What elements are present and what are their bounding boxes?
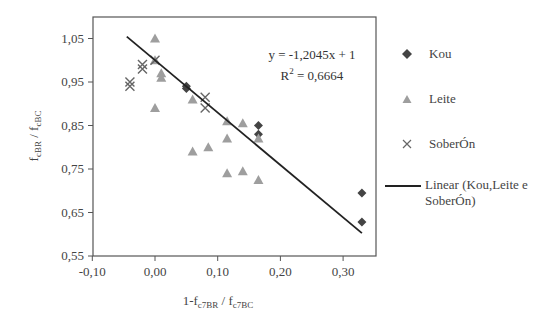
legend-label: SoberÓn	[429, 136, 475, 152]
y-tick-label: 1,05	[61, 31, 84, 46]
y-axis: 0,550,650,750,850,951,05	[61, 31, 93, 264]
soberon-point	[138, 64, 147, 73]
y-tick-label: 0,65	[61, 205, 84, 220]
y-tick-label: 0,85	[61, 118, 84, 133]
x-tick-label: 0,10	[206, 264, 229, 279]
leite-point	[188, 147, 198, 156]
soberon-point	[125, 78, 134, 87]
soberon-point	[125, 82, 134, 91]
x-tick-label: 0,20	[269, 264, 292, 279]
kou-point	[254, 121, 263, 130]
diamond-marker-icon	[395, 49, 419, 59]
y-tick-label: 0,55	[61, 248, 84, 263]
leite-point	[222, 168, 232, 177]
legend: Kou Leite SoberÓn Linear (Kou,Leite e So…	[395, 44, 545, 197]
x-marker-icon	[395, 139, 419, 149]
x-tick-label: -0,10	[79, 264, 106, 279]
data-points	[125, 34, 366, 227]
y-axis-title: fcBR / fcBC	[26, 111, 43, 162]
line-marker-icon	[385, 185, 421, 187]
legend-item-soberon: SoberÓn	[395, 134, 545, 154]
legend-label: Kou	[429, 46, 451, 62]
legend-label: Leite	[429, 91, 456, 107]
leite-point	[238, 166, 248, 175]
x-axis-title: 1-fc7BR / fc7BC	[183, 293, 254, 310]
leite-point	[150, 34, 160, 43]
kou-point	[357, 218, 366, 227]
leite-point	[203, 142, 213, 151]
trendline-equation: y = -1,2045x + 1	[268, 47, 355, 62]
kou-point	[357, 188, 366, 197]
soberon-point	[138, 60, 147, 69]
triangle-marker-icon	[395, 94, 419, 104]
leite-point	[150, 103, 160, 112]
legend-item-linear-trend: Linear (Kou,Leite e SoberÓn)	[395, 177, 545, 197]
trendline	[127, 37, 362, 233]
legend-item-kou: Kou	[395, 44, 545, 64]
x-tick-label: 0,00	[144, 264, 167, 279]
leite-point	[222, 134, 232, 143]
x-tick-label: 0,30	[332, 264, 355, 279]
leite-point	[253, 175, 263, 184]
legend-label: Linear (Kou,Leite e SoberÓn)	[425, 177, 535, 209]
leite-point	[238, 118, 248, 127]
x-axis: -0,100,000,100,200,30	[79, 256, 355, 279]
r-squared-label: R2 = 0,6664	[281, 66, 344, 83]
y-tick-label: 0,95	[61, 74, 84, 89]
legend-item-leite: Leite	[395, 89, 545, 109]
y-tick-label: 0,75	[61, 161, 84, 176]
